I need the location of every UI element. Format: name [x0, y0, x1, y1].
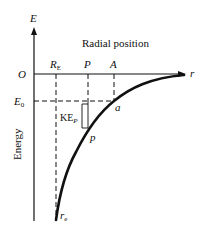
position-label-a: A — [109, 58, 117, 70]
radial-axis-symbol: r — [190, 67, 195, 79]
position-label-re: RE — [49, 58, 61, 72]
position-label-p: P — [83, 58, 91, 70]
kinetic-energy-label: KEP — [60, 112, 78, 125]
diagram-title: Radial position — [82, 37, 149, 49]
energy-axis-arrowhead — [31, 27, 37, 35]
origin-label: O — [18, 68, 26, 80]
energy-level-label: E0 — [13, 95, 25, 109]
point-label-p: p — [89, 131, 96, 143]
energy-curve — [56, 75, 184, 220]
energy-axis-label: Energy — [11, 128, 23, 160]
point-label-re: re — [60, 209, 67, 223]
point-label-a: a — [115, 101, 121, 113]
energy-radial-diagram: E r O Radial position Energy RE P A E0 K… — [0, 0, 202, 230]
ke-bracket — [82, 104, 88, 128]
energy-axis-symbol: E — [29, 12, 37, 24]
